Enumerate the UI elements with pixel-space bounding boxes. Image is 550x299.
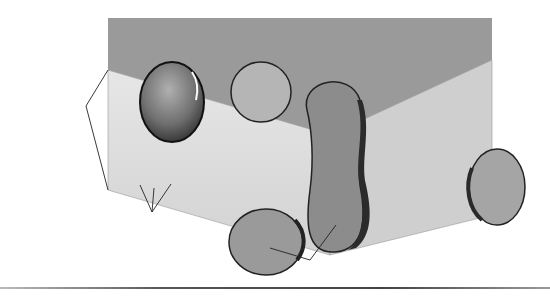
membrane-illustration [0,0,550,299]
bottom-rule [0,287,550,289]
protein-lower-left [229,209,303,275]
membrane-bracket [86,70,108,190]
protein-dark-oval [140,62,204,142]
protein-round-top [231,62,291,122]
membrane-diagram [0,0,550,299]
